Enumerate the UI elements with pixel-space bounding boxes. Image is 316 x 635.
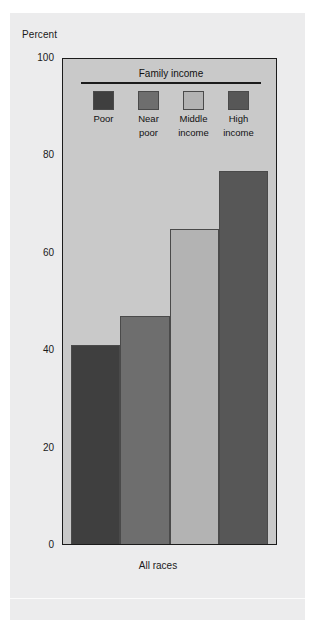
legend-label-near-poor-line2: poor [126, 127, 171, 138]
legend-label-middle-income-line2: income [171, 127, 216, 138]
legend-label-high-income-line1: High [216, 113, 261, 124]
legend-swatch-poor [93, 91, 114, 110]
bar-poor [71, 345, 120, 544]
bar-middle-income [170, 229, 219, 544]
legend-item-middle-income: Middle income [171, 91, 216, 138]
plot-area: Family income Poor Near poor Middle inco… [62, 58, 277, 545]
legend-swatch-middle-income [183, 91, 204, 110]
legend-divider [81, 82, 261, 84]
legend-item-poor: Poor [81, 91, 126, 138]
legend-swatch-high-income [228, 91, 249, 110]
legend-label-middle-income-line1: Middle [171, 113, 216, 124]
legend: Family income Poor Near poor Middle inco… [81, 68, 261, 138]
y-tick-20: 20 [10, 442, 54, 453]
legend-label-high-income-line2: income [216, 127, 261, 138]
legend-label-near-poor-line1: Near [126, 113, 171, 124]
y-tick-0: 0 [10, 539, 54, 550]
bar-high-income [219, 171, 268, 544]
legend-item-near-poor: Near poor [126, 91, 171, 138]
x-axis-label: All races [0, 560, 316, 571]
y-tick-40: 40 [10, 344, 54, 355]
legend-items: Poor Near poor Middle income High income [81, 91, 261, 138]
y-tick-100: 100 [10, 52, 54, 63]
legend-item-high-income: High income [216, 91, 261, 138]
legend-swatch-near-poor [138, 91, 159, 110]
legend-title: Family income [81, 68, 261, 79]
card-seam-divider [10, 598, 305, 599]
y-tick-80: 80 [10, 149, 54, 160]
legend-label-poor-line1: Poor [81, 113, 126, 124]
y-axis-title: Percent [22, 29, 57, 40]
y-tick-60: 60 [10, 247, 54, 258]
bar-near-poor [120, 316, 169, 544]
